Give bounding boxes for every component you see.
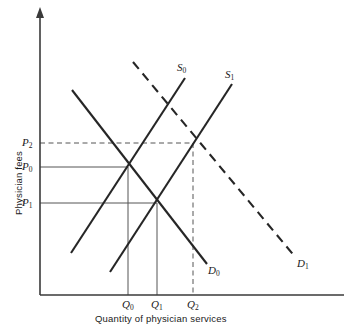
curve-label-S0: S0 (177, 62, 186, 73)
guide-line-group (40, 143, 193, 295)
curve-label-S1: S1 (225, 69, 234, 80)
y-axis-arrow-icon (36, 7, 44, 18)
curve-label-D1: D1 (297, 258, 309, 269)
price-tick-label-P2: P2 (22, 137, 32, 148)
quantity-tick-label-Q0: Q0 (122, 299, 134, 310)
plot-canvas (0, 0, 348, 330)
x-axis-title: Quantity of physician services (95, 314, 227, 324)
price-tick-label-P1: P1 (22, 197, 32, 208)
quantity-tick-label-Q2: Q2 (187, 299, 199, 310)
curve-D0 (72, 90, 207, 264)
supply-demand-figure: Physician fees Quantity of physician ser… (0, 0, 348, 330)
curve-label-D0: D0 (208, 265, 220, 276)
axis-group (36, 7, 344, 295)
quantity-tick-label-Q1: Q1 (151, 299, 163, 310)
price-tick-label-P0: P0 (22, 161, 32, 172)
